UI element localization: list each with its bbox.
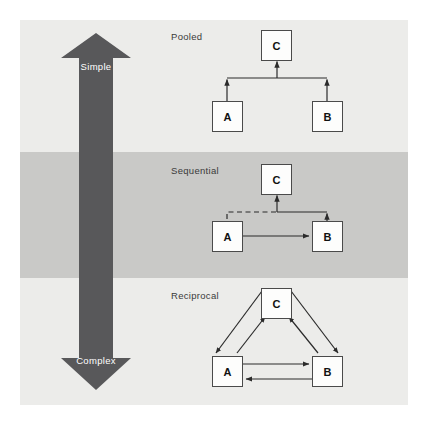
band-pooled-background: [20, 20, 408, 152]
section-label-pooled: Pooled: [171, 31, 202, 42]
reciprocal-node-c: C: [261, 288, 292, 319]
pooled-node-a: A: [212, 101, 243, 132]
diagram-panel: [20, 20, 408, 405]
figure-root: Simple Complex Pooled Sequential Recipro…: [0, 0, 425, 422]
section-label-reciprocal: Reciprocal: [171, 290, 219, 301]
pooled-node-c: C: [261, 30, 292, 61]
reciprocal-node-a: A: [212, 356, 243, 387]
sequential-node-b: B: [312, 221, 343, 252]
complexity-arrow-label-complex: Complex: [53, 355, 139, 366]
sequential-node-c: C: [261, 164, 292, 195]
section-label-sequential: Sequential: [171, 165, 219, 176]
pooled-node-b: B: [312, 101, 343, 132]
reciprocal-node-b: B: [312, 356, 343, 387]
complexity-arrow-label-simple: Simple: [53, 61, 139, 72]
sequential-node-a: A: [212, 221, 243, 252]
